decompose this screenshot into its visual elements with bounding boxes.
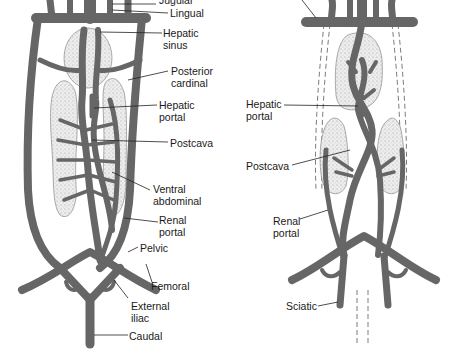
liver-left (64, 28, 112, 88)
left-panel (22, 0, 168, 344)
label-lingual: Lingual (170, 7, 204, 19)
label-femoral: Femoral (151, 280, 190, 292)
label-pelvic: Pelvic (140, 242, 168, 254)
right-panel (284, 0, 436, 345)
label-posterior-cardinal: Posterior cardinal (171, 65, 213, 89)
label-renal-portal-left: Renal portal (159, 214, 186, 238)
label-caudal: Caudal (129, 330, 162, 342)
label-jugular: Jugular (159, 0, 193, 6)
label-postcava-left: Postcava (170, 137, 213, 149)
label-postcava-right: Postcava (246, 160, 289, 172)
label-hepatic-portal-right: Hepatic portal (246, 98, 282, 122)
label-external-iliac: External iliac (131, 300, 170, 324)
venous-system-diagram: Jugular Lingual Hepatic sinus Posterior … (0, 0, 459, 360)
label-ventral-abdominal: Ventral abdominal (153, 183, 201, 207)
label-renal-portal-right: Renal portal (273, 215, 300, 239)
label-hepatic-sinus: Hepatic sinus (163, 27, 199, 51)
label-hepatic-portal-left: Hepatic portal (159, 99, 195, 123)
label-sciatic: Sciatic (286, 300, 317, 312)
